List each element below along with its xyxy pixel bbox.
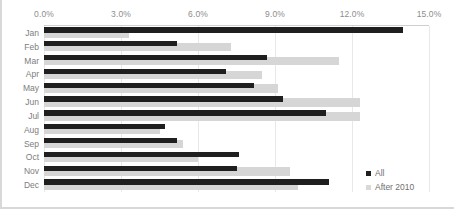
legend-item[interactable]: After 2010 — [366, 182, 452, 192]
legend-item-label: All — [375, 168, 384, 178]
square-light-icon — [366, 185, 371, 190]
bar-all — [44, 27, 403, 32]
y-axis-category-label: Feb — [24, 42, 39, 52]
bar-all — [44, 83, 254, 88]
y-axis-category-label: Oct — [26, 152, 39, 162]
x-axis-tick-label: 3.0% — [111, 9, 131, 19]
chart-row: Jun — [44, 95, 429, 109]
bar-all — [44, 166, 237, 171]
x-axis-tick-label: 12.0% — [340, 9, 365, 19]
chart-row: Jan — [44, 26, 429, 40]
y-axis-category-label: Nov — [24, 166, 39, 176]
y-axis-category-label: May — [23, 83, 39, 93]
legend-item-label: After 2010 — [375, 182, 414, 192]
bar-all — [44, 110, 326, 115]
x-axis-tick-label: 6.0% — [188, 9, 208, 19]
y-axis-category-label: Apr — [26, 69, 39, 79]
x-axis-tick-label: 15.0% — [417, 9, 442, 19]
chart-row: Apr — [44, 68, 429, 82]
x-axis-tick-labels: 0.0%3.0%6.0%9.0%12.0%15.0% — [0, 9, 454, 23]
y-axis-category-label: Jun — [25, 97, 39, 107]
y-axis-category-label: Jan — [25, 28, 39, 38]
chart-row: May — [44, 81, 429, 95]
y-axis-category-label: Dec — [24, 180, 39, 190]
bar-all — [44, 124, 165, 129]
x-axis-tick-label: 0.0% — [34, 9, 54, 19]
bar-all — [44, 55, 267, 60]
bar-all — [44, 41, 177, 46]
chart-row: Feb — [44, 40, 429, 54]
square-dark-icon — [366, 171, 371, 176]
bar-all — [44, 96, 283, 101]
chart-row: Oct — [44, 151, 429, 165]
frame-bottom-border — [0, 207, 454, 209]
chart-legend: AllAfter 2010 — [366, 168, 452, 196]
bar-all — [44, 69, 226, 74]
bar-chart: 0.0%3.0%6.0%9.0%12.0%15.0% JanFebMarAprM… — [0, 0, 454, 209]
chart-row: Aug — [44, 123, 429, 137]
y-axis-category-label: Mar — [24, 56, 39, 66]
chart-row: Sep — [44, 137, 429, 151]
frame-left-border — [0, 0, 2, 209]
bar-all — [44, 138, 177, 143]
bar-all — [44, 152, 239, 157]
legend-item[interactable]: All — [366, 168, 452, 178]
y-axis-category-label: Sep — [24, 139, 39, 149]
y-axis-category-label: Jul — [28, 111, 39, 121]
x-axis-tick-label: 9.0% — [265, 9, 285, 19]
chart-row: Mar — [44, 54, 429, 68]
bar-all — [44, 179, 329, 184]
y-axis-category-label: Aug — [24, 125, 39, 135]
chart-row: Jul — [44, 109, 429, 123]
